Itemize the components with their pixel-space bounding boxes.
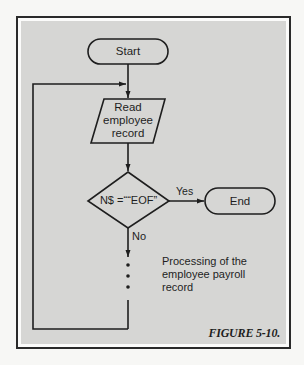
yes-label: Yes: [176, 185, 193, 198]
read-label-line2: employee: [92, 114, 164, 127]
start-label: Start: [88, 45, 168, 58]
decision-label: N$ =““EOF”: [88, 194, 169, 207]
ellipsis-dot: [126, 263, 130, 267]
end-label: End: [205, 195, 275, 208]
process-note: Processing of the employee payroll recor…: [162, 255, 247, 294]
process-note-line3: record: [162, 281, 247, 294]
read-label-line3: record: [92, 127, 164, 140]
no-label: No: [132, 230, 146, 243]
process-note-line1: Processing of the: [162, 255, 247, 268]
read-label: Read employee record: [92, 101, 164, 140]
ellipsis-dot: [126, 274, 130, 278]
figure-caption: FIGURE 5-10.: [208, 326, 280, 341]
read-label-line1: Read: [92, 101, 164, 114]
process-note-line2: employee payroll: [162, 268, 247, 281]
ellipsis-dot: [126, 285, 130, 289]
